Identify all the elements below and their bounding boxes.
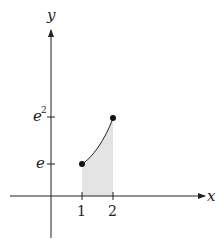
y-axis-label: y — [46, 6, 56, 24]
point-start — [79, 161, 85, 167]
point-end — [110, 115, 116, 121]
graph: y x 1 2 e e 2 — [0, 0, 220, 239]
x-tick-1: 1 — [77, 203, 86, 219]
x-axis-label: x — [207, 187, 216, 205]
y-tick-e: e — [36, 154, 45, 172]
x-tick-2: 2 — [108, 203, 117, 219]
y-tick-e2-exponent: 2 — [41, 105, 47, 115]
